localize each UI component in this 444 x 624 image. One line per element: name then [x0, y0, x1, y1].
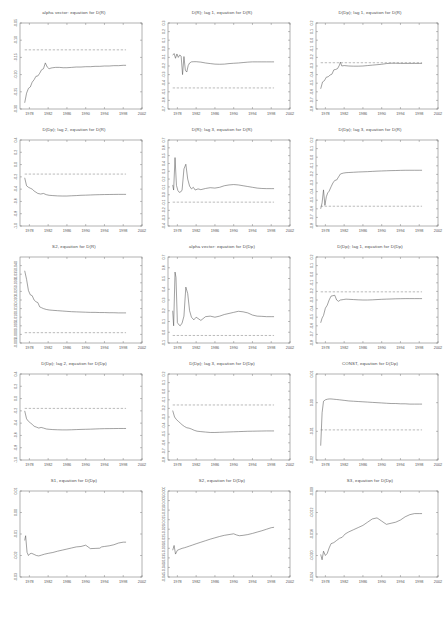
svg-text:-0.008: -0.008 [310, 487, 314, 496]
svg-text:1978: 1978 [173, 463, 181, 467]
svg-text:0.0: 0.0 [14, 396, 18, 401]
svg-text:0.2: 0.2 [14, 384, 18, 389]
svg-text:1978: 1978 [321, 112, 329, 116]
chart-title: alpha vector: equation for D(Dp) [148, 244, 296, 249]
chart-title: alpha vector: equation for D(R) [0, 10, 148, 15]
svg-text:2002: 2002 [286, 463, 294, 467]
svg-text:1982: 1982 [192, 346, 200, 350]
svg-text:-0.15: -0.15 [14, 53, 18, 61]
chart-plot: 1978198219861990199419982002-0.8-0.7-0.6… [148, 370, 296, 474]
svg-text:0.5: 0.5 [162, 276, 166, 281]
svg-text:-0.05: -0.05 [14, 19, 18, 27]
svg-text:0.1: 0.1 [162, 184, 166, 189]
svg-text:-0.10: -0.10 [14, 36, 18, 44]
svg-text:-1.0: -1.0 [14, 223, 18, 229]
svg-text:1982: 1982 [340, 463, 348, 467]
svg-text:0.0: 0.0 [310, 38, 314, 43]
chart-panel: S2, equation for D(Dp)197819821986199019… [148, 474, 296, 591]
svg-text:1998: 1998 [415, 346, 423, 350]
estimate-line [321, 295, 422, 323]
chart-panel: D(R); lag 3, equation for D(R)1978198219… [148, 123, 296, 240]
chart-title: D(Dp); lag 3, equation for D(Dp) [148, 361, 296, 366]
svg-text:0.2: 0.2 [162, 372, 166, 377]
chart-plot: 1978198219861990199419982002-0.4-0.3-0.2… [148, 136, 296, 240]
svg-text:1994: 1994 [248, 463, 256, 467]
chart-plot: 1978198219861990199419982002-0.045-0.040… [148, 487, 296, 591]
svg-text:0.0: 0.0 [162, 330, 166, 335]
svg-text:-0.2: -0.2 [310, 288, 314, 294]
svg-text:0.1: 0.1 [162, 319, 166, 324]
svg-text:2002: 2002 [138, 112, 146, 116]
svg-text:1990: 1990 [377, 229, 385, 233]
svg-text:-0.4: -0.4 [162, 223, 166, 229]
svg-text:-0.7: -0.7 [162, 106, 166, 112]
svg-text:0.1: 0.1 [310, 146, 314, 151]
svg-text:-0.2: -0.2 [162, 63, 166, 69]
svg-text:-0.25: -0.25 [14, 88, 18, 96]
chart-title: D(Dp); lag 1, equation for D(R) [296, 10, 444, 15]
svg-text:0.01: 0.01 [14, 488, 18, 495]
svg-text:-0.6: -0.6 [162, 440, 166, 446]
svg-text:0.0: 0.0 [162, 389, 166, 394]
svg-text:0.0: 0.0 [310, 155, 314, 160]
svg-text:1990: 1990 [229, 346, 237, 350]
svg-text:0.2: 0.2 [310, 138, 314, 143]
svg-text:2002: 2002 [434, 229, 442, 233]
svg-text:1986: 1986 [211, 580, 219, 584]
svg-text:0.6: 0.6 [162, 265, 166, 270]
chart-plot: 1978198219861990199419982002-0.8-0.7-0.6… [296, 19, 444, 123]
svg-text:1994: 1994 [396, 229, 404, 233]
chart-title: S1, equation for D(Dp) [0, 478, 148, 483]
svg-text:1978: 1978 [173, 346, 181, 350]
svg-text:1986: 1986 [211, 229, 219, 233]
chart-plot: 1978198219861990199419982002-0.024-0.020… [296, 487, 444, 591]
svg-text:0.2: 0.2 [162, 29, 166, 34]
chart-plot: 1978198219861990199419982002-0.03-0.02-0… [0, 487, 148, 591]
svg-text:1978: 1978 [25, 580, 33, 584]
svg-text:1982: 1982 [340, 112, 348, 116]
svg-text:-0.4: -0.4 [14, 420, 18, 426]
svg-text:-0.7: -0.7 [310, 214, 314, 220]
svg-text:1998: 1998 [267, 346, 275, 350]
svg-text:1982: 1982 [192, 463, 200, 467]
svg-text:-0.6: -0.6 [310, 323, 314, 329]
svg-text:1990: 1990 [81, 463, 89, 467]
svg-text:1982: 1982 [340, 229, 348, 233]
svg-text:-0.3: -0.3 [310, 63, 314, 69]
svg-text:-0.1: -0.1 [162, 397, 166, 403]
svg-text:-0.4: -0.4 [310, 188, 314, 194]
chart-title: D(R); lag 1, equation for D(R) [148, 10, 296, 15]
svg-text:-0.7: -0.7 [162, 448, 166, 454]
svg-text:-1.0: -1.0 [14, 457, 18, 463]
svg-text:-0.020: -0.020 [310, 550, 314, 560]
estimate-line [25, 63, 126, 103]
chart-plot: 1978198219861990199419982002-0.8-0.7-0.6… [296, 136, 444, 240]
chart-panel: S2, equation for D(R)1978198219861990199… [0, 240, 148, 357]
svg-text:-0.8: -0.8 [14, 445, 18, 451]
svg-text:1998: 1998 [267, 229, 275, 233]
svg-text:-0.4: -0.4 [162, 422, 166, 428]
svg-text:0.040: 0.040 [14, 261, 18, 270]
svg-text:1982: 1982 [44, 346, 52, 350]
svg-text:-0.6: -0.6 [310, 206, 314, 212]
svg-text:1990: 1990 [81, 580, 89, 584]
svg-text:1998: 1998 [415, 463, 423, 467]
chart-title: S3, equation for D(Dp) [296, 478, 444, 483]
svg-text:1994: 1994 [396, 346, 404, 350]
estimate-line [321, 170, 422, 209]
svg-text:1990: 1990 [229, 229, 237, 233]
svg-text:-0.5: -0.5 [310, 314, 314, 320]
svg-text:1990: 1990 [229, 463, 237, 467]
svg-text:1978: 1978 [25, 229, 33, 233]
chart-panel: S1, equation for D(Dp)197819821986199019… [0, 474, 148, 591]
svg-text:1994: 1994 [100, 112, 108, 116]
svg-text:-0.024: -0.024 [310, 572, 314, 582]
svg-text:1998: 1998 [415, 112, 423, 116]
svg-text:0.4: 0.4 [162, 161, 166, 166]
chart-plot: 1978198219861990199419982002-0.02-0.010.… [296, 370, 444, 474]
svg-text:-0.8: -0.8 [310, 223, 314, 229]
svg-text:-0.7: -0.7 [310, 97, 314, 103]
chart-panel: alpha vector: equation for D(R)197819821… [0, 6, 148, 123]
svg-text:1994: 1994 [100, 580, 108, 584]
svg-text:1998: 1998 [267, 580, 275, 584]
